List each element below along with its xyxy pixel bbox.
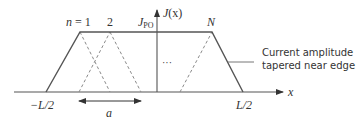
label-j-po: JPO: [138, 15, 154, 30]
y-axis-label: J(x): [163, 6, 182, 20]
annotation-line-2: tapered near edge: [262, 60, 355, 71]
svg-text:JPO: JPO: [138, 15, 154, 30]
annotation-line-1: Current amplitude: [262, 47, 353, 58]
label-left-edge: −L/2: [30, 98, 54, 112]
current-distribution-diagram: x J(x) n = 1 2 N JPO ··· −L/2 L/2 a Curr…: [0, 0, 360, 123]
ellipsis-dots: ···: [162, 57, 172, 68]
label-spacing-a: a: [106, 106, 112, 120]
element-current-dashed-lines: [79, 32, 212, 92]
label-element-N: N: [206, 15, 216, 29]
current-envelope: [46, 32, 243, 92]
svg-text:J(x): J(x): [163, 6, 182, 20]
x-axis-label: x: [287, 85, 294, 99]
label-element-2: 2: [107, 15, 113, 29]
label-n-equals-1: n = 1: [66, 15, 91, 29]
label-right-edge: L/2: [235, 98, 252, 112]
